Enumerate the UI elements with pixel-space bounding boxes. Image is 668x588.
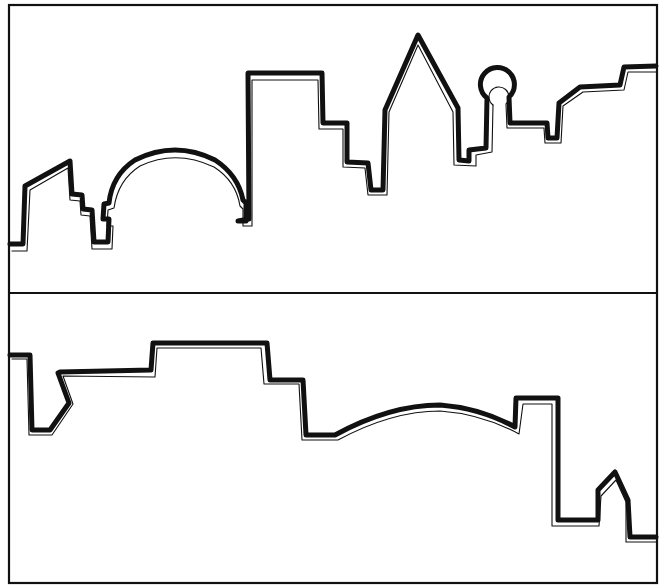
bottom-panel <box>10 343 656 542</box>
skyline-figure <box>0 0 668 588</box>
top-panel <box>10 35 656 251</box>
top-skyline-outline <box>10 35 656 244</box>
top-skyline-shadow-line <box>12 45 493 251</box>
